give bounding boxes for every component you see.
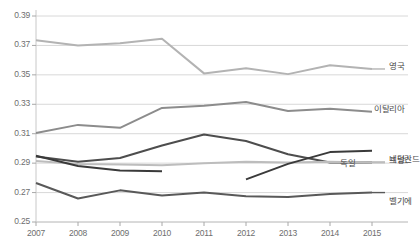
y-axis-tick-label: 0.35 <box>2 69 30 79</box>
series-line-1 <box>36 102 372 133</box>
x-axis-tick-label: 2015 <box>355 228 389 238</box>
series-label-벨기에: 벨기에 <box>389 194 412 206</box>
series-label-영국: 영국 <box>389 59 404 71</box>
x-axis-tick-label: 2012 <box>229 228 263 238</box>
series-label-이탈리아: 이탈리아 <box>374 102 405 114</box>
y-axis-tick-label: 0.37 <box>2 39 30 49</box>
x-axis-tick-label: 2014 <box>313 228 347 238</box>
series-label-프랑스: 프랑스 <box>389 153 412 165</box>
x-axis-tick-label: 2009 <box>103 228 137 238</box>
y-axis-tick-label: 0.31 <box>2 128 30 138</box>
series-line-2 <box>36 134 372 162</box>
x-axis-tick-label: 2008 <box>61 228 95 238</box>
y-axis-tick-label: 0.29 <box>2 157 30 167</box>
series-line-5 <box>36 183 372 198</box>
y-axis-tick-label: 0.25 <box>2 216 30 226</box>
x-axis-tick-label: 2013 <box>271 228 305 238</box>
x-axis-tick-label: 2011 <box>187 228 221 238</box>
y-axis-tick-label: 0.27 <box>2 187 30 197</box>
series-label-독일: 독일 <box>340 156 355 168</box>
x-axis-tick-label: 2010 <box>145 228 179 238</box>
series-line-0 <box>36 39 372 74</box>
x-axis-tick-label: 2007 <box>19 228 53 238</box>
y-axis-tick-label: 0.39 <box>2 10 30 20</box>
y-axis-tick-label: 0.33 <box>2 98 30 108</box>
